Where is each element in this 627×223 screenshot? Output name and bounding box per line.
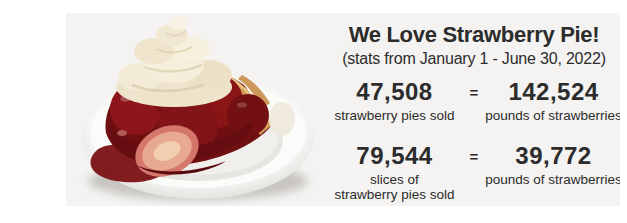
stat-slices-sold-caption-line1: slices of — [370, 172, 419, 188]
stat-pies-sold-caption: strawberry pies sold — [334, 108, 454, 124]
strawberry-pie-photo — [66, 13, 334, 206]
stat-pies-sold: 47,508 strawberry pies sold — [334, 80, 454, 124]
strawberry-pie-banner: We Love Strawberry Pie! (stats from Janu… — [66, 13, 620, 206]
equals-sign-row2: = — [470, 144, 479, 164]
stat-pounds-row2: 39,772 pounds of strawberries — [485, 144, 620, 188]
banner-title: We Love Strawberry Pie! — [349, 22, 600, 48]
stat-pounds-row1-caption: pounds of strawberries — [485, 108, 620, 124]
stat-slices-sold: 79,544 slices of strawberry pies sold — [334, 144, 454, 203]
equals-sign-row1: = — [470, 80, 479, 100]
banner-subtitle: (stats from January 1 - June 30, 2022) — [342, 50, 606, 68]
stat-pounds-row1-value: 142,524 — [508, 80, 598, 104]
stat-pounds-row2-caption: pounds of strawberries — [485, 172, 620, 188]
stat-slices-sold-value: 79,544 — [356, 144, 432, 168]
stat-slices-sold-caption-line2: strawberry pies sold — [334, 187, 454, 203]
stats-content: We Love Strawberry Pie! (stats from Janu… — [328, 13, 620, 206]
stat-pounds-row2-value: 39,772 — [515, 144, 591, 168]
stat-pounds-row1: 142,524 pounds of strawberries — [485, 80, 620, 124]
stat-pies-sold-value: 47,508 — [356, 80, 432, 104]
stats-grid: 47,508 strawberry pies sold = 142,524 po… — [328, 80, 620, 203]
infographic-page: We Love Strawberry Pie! (stats from Janu… — [0, 0, 627, 223]
